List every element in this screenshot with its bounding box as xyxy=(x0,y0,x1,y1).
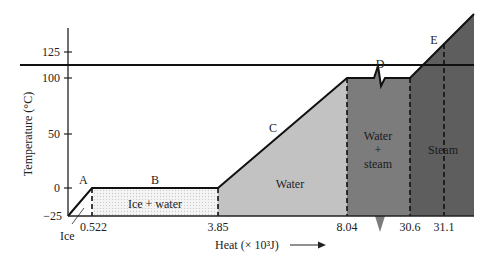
region-steam xyxy=(410,14,474,216)
y-tick-100: 100 xyxy=(42,71,60,85)
segment-label-e: E xyxy=(430,33,437,47)
segment-label-d: D xyxy=(376,57,385,71)
segment-label-a: A xyxy=(79,173,88,187)
y-tick-125: 125 xyxy=(42,45,60,59)
x-tick-311: 31.1 xyxy=(434,220,455,234)
region-label-steam: Steam xyxy=(428,143,459,157)
region-label-ice-water: Ice + water xyxy=(128,197,182,211)
region-water xyxy=(218,78,347,216)
arrow-head-icon xyxy=(318,242,326,249)
ice-label: Ice xyxy=(60,229,75,243)
x-tick-306: 30.6 xyxy=(400,220,421,234)
x-axis-label: Heat (× 10³J) xyxy=(215,238,279,252)
y-axis-label: Temperature (°C) xyxy=(21,92,35,176)
region-label-water-steam-1: Water xyxy=(364,129,392,143)
y-tick-0: 0 xyxy=(54,181,60,195)
y-tick-50: 50 xyxy=(48,127,60,141)
x-tick-804: 8.04 xyxy=(337,220,358,234)
segment-label-b: B xyxy=(151,173,159,187)
x-tick-385: 3.85 xyxy=(208,220,229,234)
segment-label-c: C xyxy=(269,121,277,135)
region-label-water-steam-3: steam xyxy=(364,157,393,171)
y-tick-minus25: −25 xyxy=(43,209,62,223)
region-label-water-steam-2: + xyxy=(375,143,382,157)
region-label-water: Water xyxy=(276,177,304,191)
heating-curve-diagram: 125 100 50 0 −25 Temperature (°C) 0.522 … xyxy=(0,0,494,266)
x-tick-0522: 0.522 xyxy=(80,220,107,234)
